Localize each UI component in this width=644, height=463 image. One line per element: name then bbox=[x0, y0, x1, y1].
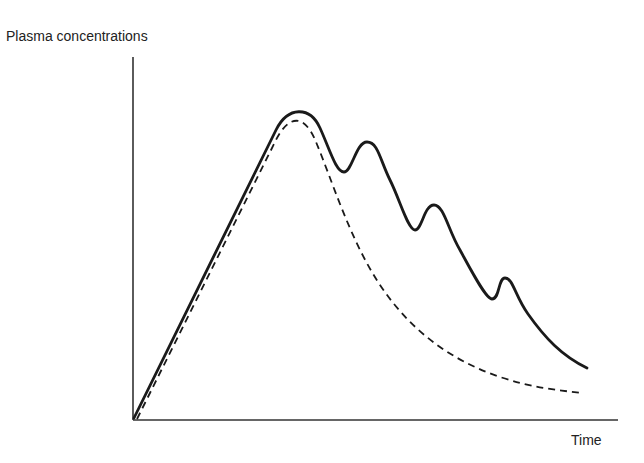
series-single-dose-dashed bbox=[137, 121, 582, 419]
series-repeated-dose-solid bbox=[134, 112, 587, 418]
chart-canvas bbox=[0, 0, 644, 463]
